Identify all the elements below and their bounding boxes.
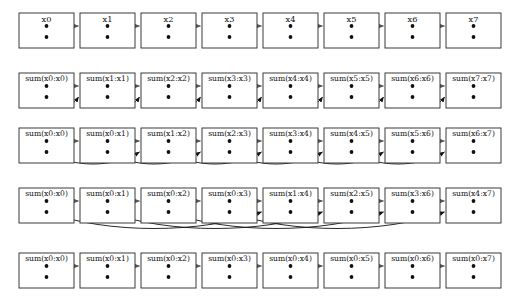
scan-node[interactable]: x2 bbox=[141, 13, 196, 48]
node-dot-lower bbox=[472, 275, 476, 279]
node-dot-upper bbox=[167, 139, 171, 143]
node-dot-lower bbox=[106, 95, 110, 99]
scan-node[interactable]: sum(x5:x5) bbox=[324, 73, 379, 108]
node-label: sum(x2:x3) bbox=[208, 129, 251, 138]
node-label: sum(x0:x1) bbox=[86, 189, 129, 198]
scan-node[interactable]: sum(x0:x0) bbox=[19, 253, 74, 288]
node-label: sum(x0:x6) bbox=[391, 254, 434, 263]
node-dot-lower bbox=[289, 35, 293, 39]
node-dot-lower bbox=[350, 150, 354, 154]
node-dot-upper bbox=[472, 24, 476, 28]
scan-node[interactable]: sum(x0:x3) bbox=[202, 188, 257, 223]
node-label: x0 bbox=[42, 14, 52, 24]
node-dot-lower bbox=[228, 275, 232, 279]
scan-node[interactable]: sum(x1:x4) bbox=[263, 188, 318, 223]
node-label: sum(x0:x2) bbox=[147, 189, 190, 198]
node-label: sum(x2:x2) bbox=[147, 74, 190, 83]
scan-node[interactable]: sum(x2:x5) bbox=[324, 188, 379, 223]
node-label: sum(x7:x7) bbox=[452, 74, 495, 83]
scan-node[interactable]: x0 bbox=[19, 13, 74, 48]
scan-node[interactable]: sum(x0:x6) bbox=[385, 253, 440, 288]
node-dot-lower bbox=[106, 150, 110, 154]
node-dot-lower bbox=[45, 95, 49, 99]
node-dot-upper bbox=[411, 199, 415, 203]
scan-node[interactable]: sum(x0:x0) bbox=[19, 128, 74, 163]
node-label: x6 bbox=[408, 14, 418, 24]
scan-node[interactable]: sum(x3:x6) bbox=[385, 188, 440, 223]
scan-node[interactable]: sum(x0:x7) bbox=[446, 253, 501, 288]
scan-node[interactable]: sum(x0:x0) bbox=[19, 188, 74, 223]
scan-node[interactable]: sum(x0:x2) bbox=[141, 188, 196, 223]
node-dot-upper bbox=[45, 24, 49, 28]
scan-node[interactable]: sum(x3:x4) bbox=[263, 128, 318, 163]
node-dot-upper bbox=[228, 199, 232, 203]
node-dot-lower bbox=[106, 35, 110, 39]
node-dot-upper bbox=[289, 84, 293, 88]
node-label: x7 bbox=[469, 14, 479, 24]
node-dot-lower bbox=[350, 210, 354, 214]
scan-node[interactable]: sum(x1:x1) bbox=[80, 73, 135, 108]
node-dot-upper bbox=[167, 264, 171, 268]
scan-node[interactable]: x4 bbox=[263, 13, 318, 48]
node-dot-lower bbox=[167, 210, 171, 214]
node-dot-upper bbox=[411, 84, 415, 88]
node-dot-lower bbox=[45, 275, 49, 279]
scan-node[interactable]: sum(x0:x1) bbox=[80, 253, 135, 288]
scan-node[interactable]: sum(x1:x2) bbox=[141, 128, 196, 163]
scan-node[interactable]: sum(x0:x1) bbox=[80, 188, 135, 223]
node-dot-lower bbox=[411, 95, 415, 99]
node-label: x5 bbox=[347, 14, 357, 24]
node-dot-lower bbox=[411, 35, 415, 39]
scan-node[interactable]: x5 bbox=[324, 13, 379, 48]
node-label: sum(x0:x3) bbox=[208, 189, 251, 198]
scan-node[interactable]: sum(x0:x0) bbox=[19, 73, 74, 108]
node-dot-lower bbox=[411, 210, 415, 214]
scan-node[interactable]: sum(x2:x3) bbox=[202, 128, 257, 163]
node-dot-lower bbox=[45, 150, 49, 154]
scan-node[interactable]: sum(x0:x1) bbox=[80, 128, 135, 163]
node-dot-lower bbox=[472, 210, 476, 214]
node-label: sum(x0:x0) bbox=[25, 189, 68, 198]
scan-node[interactable]: sum(x6:x6) bbox=[385, 73, 440, 108]
node-dot-upper bbox=[350, 24, 354, 28]
node-label: sum(x1:x2) bbox=[147, 129, 190, 138]
scan-node[interactable]: sum(x5:x6) bbox=[385, 128, 440, 163]
node-dot-upper bbox=[411, 264, 415, 268]
scan-node[interactable]: x1 bbox=[80, 13, 135, 48]
node-dot-upper bbox=[289, 264, 293, 268]
node-label: sum(x0:x2) bbox=[147, 254, 190, 263]
node-dot-upper bbox=[289, 139, 293, 143]
node-label: sum(x6:x7) bbox=[452, 129, 495, 138]
node-dot-lower bbox=[472, 35, 476, 39]
scan-node[interactable]: sum(x4:x7) bbox=[446, 188, 501, 223]
node-label: sum(x0:x1) bbox=[86, 254, 129, 263]
scan-node[interactable]: sum(x0:x3) bbox=[202, 253, 257, 288]
scan-node[interactable]: x6 bbox=[385, 13, 440, 48]
node-label: x1 bbox=[103, 14, 113, 24]
node-dot-upper bbox=[228, 139, 232, 143]
scan-node[interactable]: sum(x4:x4) bbox=[263, 73, 318, 108]
scan-node[interactable]: sum(x0:x2) bbox=[141, 253, 196, 288]
node-label: sum(x2:x5) bbox=[330, 189, 373, 198]
scan-node[interactable]: sum(x3:x3) bbox=[202, 73, 257, 108]
node-dot-upper bbox=[472, 199, 476, 203]
scan-node[interactable]: sum(x7:x7) bbox=[446, 73, 501, 108]
node-label: sum(x3:x4) bbox=[269, 129, 312, 138]
node-label: sum(x6:x6) bbox=[391, 74, 434, 83]
scan-node[interactable]: x7 bbox=[446, 13, 501, 48]
scan-node[interactable]: sum(x4:x5) bbox=[324, 128, 379, 163]
node-label: sum(x4:x7) bbox=[452, 189, 495, 198]
node-dot-lower bbox=[472, 95, 476, 99]
scan-node[interactable]: sum(x2:x2) bbox=[141, 73, 196, 108]
scan-node[interactable]: x3 bbox=[202, 13, 257, 48]
scan-node[interactable]: sum(x6:x7) bbox=[446, 128, 501, 163]
node-dot-lower bbox=[167, 275, 171, 279]
scan-node[interactable]: sum(x0:x5) bbox=[324, 253, 379, 288]
scan-node[interactable]: sum(x0:x4) bbox=[263, 253, 318, 288]
node-dot-upper bbox=[350, 199, 354, 203]
node-label: x4 bbox=[286, 14, 296, 24]
node-dot-lower bbox=[167, 150, 171, 154]
node-dot-lower bbox=[350, 275, 354, 279]
node-label: sum(x1:x1) bbox=[86, 74, 129, 83]
node-dot-lower bbox=[289, 150, 293, 154]
